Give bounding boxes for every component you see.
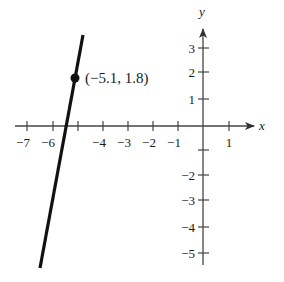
- y-tick-label: 2: [189, 65, 196, 80]
- x-axis-label: x: [258, 118, 265, 133]
- y-tick-label: −2: [181, 168, 195, 183]
- x-tick-label: 1: [226, 135, 233, 150]
- x-tick-label: −2: [142, 135, 156, 150]
- x-tick-label: −7: [16, 135, 30, 150]
- x-tick-label: −6: [41, 135, 55, 150]
- x-tick-label: −1: [167, 135, 181, 150]
- y-axis-label: y: [197, 4, 205, 19]
- data-line: [40, 35, 83, 268]
- y-tick-label: 3: [189, 41, 196, 56]
- data-point: [71, 74, 80, 83]
- y-tick-label: −3: [181, 193, 195, 208]
- y-tick-label: −4: [181, 220, 195, 235]
- x-tick-labels: −7 −6 −4 −3 −2 −1 1: [16, 135, 232, 150]
- y-tick-label: −5: [181, 246, 195, 261]
- y-tick-labels: 3 2 1 −2 −3 −4 −5: [181, 41, 195, 261]
- x-tick-label: −4: [92, 135, 106, 150]
- x-tick-label: −3: [117, 135, 131, 150]
- coordinate-plot: −7 −6 −4 −3 −2 −1 1 3 2 1 −2 −3 −4 −5 x …: [0, 0, 284, 282]
- point-label: (−5.1, 1.8): [85, 70, 148, 87]
- y-tick-label: 1: [189, 92, 196, 107]
